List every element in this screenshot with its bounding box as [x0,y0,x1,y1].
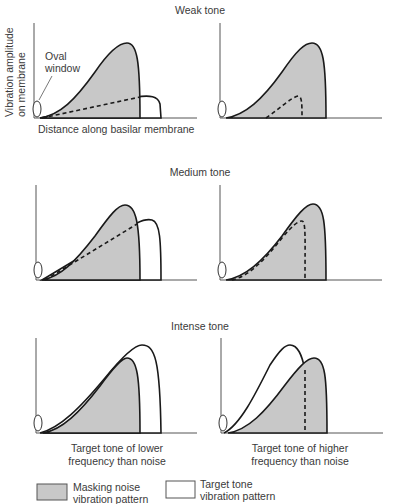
weak-right-panel [218,23,382,118]
oval-window-icon [34,262,42,278]
legend-noise-swatch [37,484,67,500]
oval-window-icon [219,415,227,431]
medium-tone-title: Medium tone [170,166,231,178]
legend-tone-label-line2: vibration pattern [200,490,275,502]
caption-left-line1: Target tone of lower [71,442,164,454]
oval-window-label-line1: Oval [45,50,67,62]
noise-pattern [42,205,140,280]
noise-pattern [43,358,140,433]
noise-pattern [226,204,326,280]
caption-right-line1: Target tone of higher [252,442,349,454]
oval-window-label-line2: window [44,62,80,74]
legend-noise-label-line2: vibration pattern [73,493,148,504]
masking-diagram: Weak tone Vibration amplitude on membran… [0,0,402,504]
oval-window-pointer [39,76,52,100]
legend: Masking noise vibration pattern Target t… [37,478,275,504]
oval-window-icon [218,262,226,278]
noise-pattern [226,43,326,118]
caption-left-line2: frequency than noise [68,455,166,467]
legend-tone-swatch [166,481,195,498]
legend-tone-label-line1: Target tone [200,478,253,490]
y-axis-label-line2: on membrane [15,52,27,117]
intense-right-panel [219,338,383,433]
legend-noise-label-line1: Masking noise [73,481,140,493]
caption-right-line2: frequency than noise [251,455,349,467]
intense-left-panel [34,338,197,433]
y-axis-label-line1: Vibration amplitude [3,27,15,117]
medium-right-panel [218,185,382,280]
weak-left-panel: Vibration amplitude on membrane Oval win… [3,23,197,135]
oval-window-icon [218,101,226,117]
x-axis-label: Distance along basilar membrane [38,123,195,135]
oval-window-icon [33,101,41,117]
weak-tone-title: Weak tone [175,4,225,16]
intense-tone-title: Intense tone [171,320,229,332]
medium-left-panel [34,185,197,280]
oval-window-icon [34,415,42,431]
